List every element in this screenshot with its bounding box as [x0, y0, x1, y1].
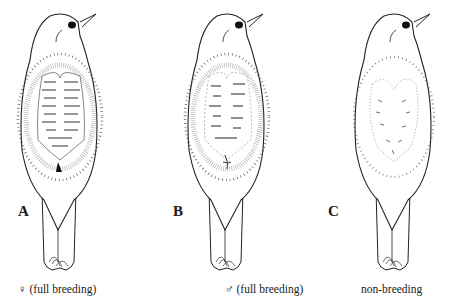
panel-a: A ♀ (full breeding) [0, 0, 153, 304]
panel-caption: non-breeding [361, 283, 422, 295]
panel-letter: A [18, 203, 29, 220]
panel-letter: C [328, 203, 339, 220]
panel-c: C non-breeding [306, 0, 459, 304]
panel-b: B ♂ (full breeding) [153, 0, 306, 304]
bird-non-breeding-illustration [306, 0, 459, 304]
panel-caption: ♂ (full breeding) [225, 283, 303, 295]
bird-female-breeding-illustration [0, 0, 153, 304]
bird-male-breeding-illustration [153, 0, 306, 304]
panel-letter: B [173, 203, 183, 220]
panel-caption: ♀ (full breeding) [18, 283, 96, 295]
